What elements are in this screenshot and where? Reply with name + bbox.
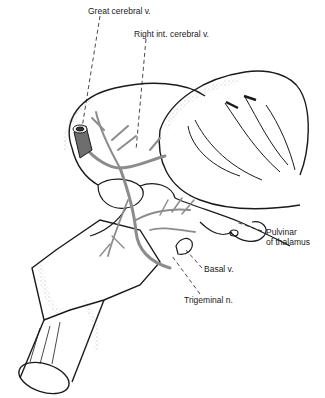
label-pulvinar-line1: Pulvinar (266, 227, 310, 237)
label-basal-vein: Basal v. (204, 264, 234, 274)
label-great-cerebral-vein: Great cerebral v. (88, 6, 151, 16)
label-right-internal-cerebral-vein: Right int. cerebral v. (134, 29, 209, 39)
right-hemisphere (159, 71, 308, 209)
label-pulvinar-of-thalamus: Pulvinar of thalamus (266, 227, 310, 247)
label-trigeminal-nerve: Trigeminal n. (184, 295, 233, 305)
deep-cerebral-veins (84, 112, 195, 268)
label-pulvinar-line2: of thalamus (266, 237, 310, 247)
brainstem (15, 220, 160, 398)
brain-illustration (0, 0, 325, 398)
